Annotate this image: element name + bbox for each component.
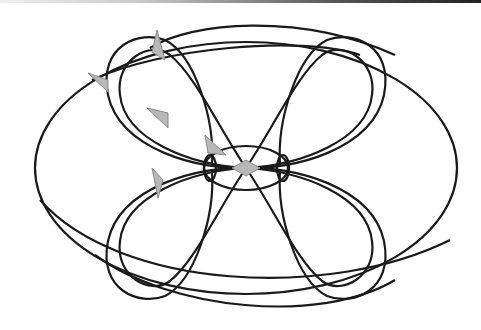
arrow-marker-center-left — [205, 135, 226, 155]
lobe-upper-left-inner — [120, 50, 246, 168]
lobe-upper-right-inner — [246, 50, 372, 168]
arrow-marker-inner-left — [147, 108, 168, 128]
knot-diagram — [0, 0, 481, 330]
lobe-lower-left-inner — [120, 168, 246, 286]
center-ring-left — [204, 155, 216, 181]
lobe-lower-right-inner — [246, 168, 372, 286]
center-diamond — [232, 160, 260, 176]
top-arc-outer — [150, 26, 395, 55]
bottom-arc-inner — [40, 200, 450, 278]
